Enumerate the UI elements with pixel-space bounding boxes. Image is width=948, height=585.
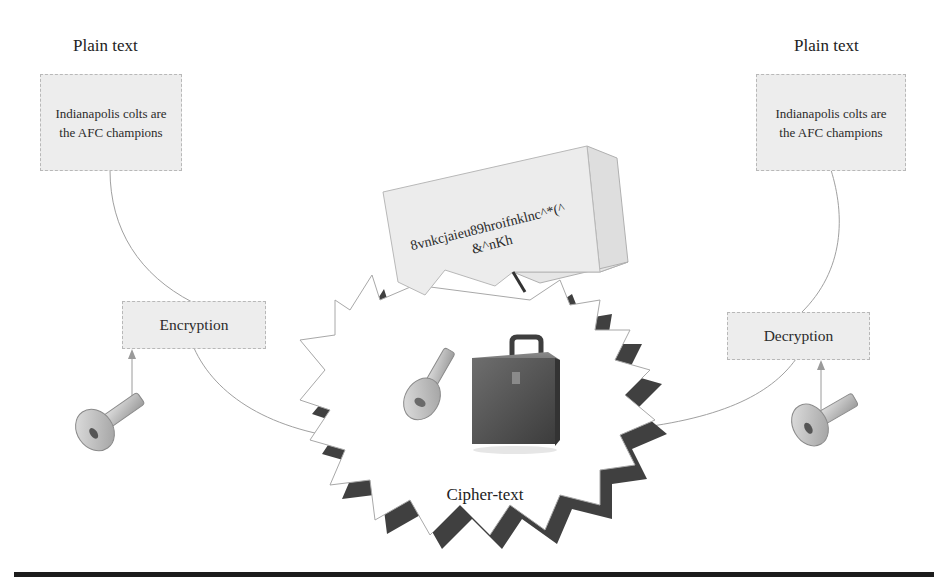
left-key-icon bbox=[68, 380, 154, 458]
encryption-box: Encryption bbox=[122, 301, 266, 349]
left-plaintext-line2: the AFC champions bbox=[55, 123, 166, 142]
right-plaintext-box: Indianapolis colts are the AFC champions bbox=[756, 74, 906, 171]
right-plaintext-heading: Plain text bbox=[794, 36, 859, 56]
ciphertext-burst-label: Cipher-text bbox=[400, 485, 570, 505]
decryption-box: Decryption bbox=[727, 312, 870, 360]
left-plaintext-heading: Plain text bbox=[73, 36, 138, 56]
right-plaintext-line1: Indianapolis colts are bbox=[775, 104, 886, 123]
left-plaintext-box: Indianapolis colts are the AFC champions bbox=[40, 74, 182, 171]
right-plaintext-line2: the AFC champions bbox=[775, 123, 886, 142]
right-key-icon bbox=[784, 380, 866, 453]
encryption-diagram: Plain text Indianapolis colts are the AF… bbox=[0, 0, 948, 585]
bottom-rule-divider bbox=[14, 572, 934, 577]
connector-right-upper bbox=[801, 170, 839, 313]
left-plaintext-line1: Indianapolis colts are bbox=[55, 104, 166, 123]
connector-left-upper bbox=[110, 170, 192, 302]
